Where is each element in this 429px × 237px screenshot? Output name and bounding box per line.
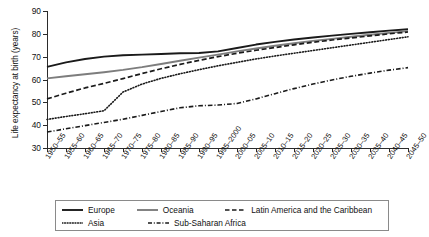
legend-label-latin-america-and-the-caribbean: Latin America and the Caribbean [251, 206, 372, 214]
series-line-europe [47, 29, 408, 67]
y-axis-tick-label: 60 [32, 75, 41, 83]
solid-line-swatch [62, 206, 83, 214]
legend-item-sub-saharan-africa: Sub-Saharan Africa [148, 219, 240, 227]
dotted-line-swatch [62, 219, 83, 227]
dashed-line-swatch [225, 206, 246, 214]
series-line-sub-saharan-africa [47, 68, 408, 132]
legend-item-europe: Europe [62, 206, 127, 214]
legend-label-asia: Asia [88, 219, 104, 227]
solid-line-swatch [137, 206, 158, 214]
y-axis-title: Life expectancy at birth (years) [10, 13, 20, 153]
y-axis-tick-label: 80 [32, 30, 41, 38]
y-axis-tick-label: 30 [32, 144, 41, 152]
plot-area: 30405060708090 1950–551955–601960–651965… [47, 11, 408, 148]
y-axis-tick-label: 40 [32, 121, 41, 129]
legend-item-latin-america-and-the-caribbean: Latin America and the Caribbean [225, 206, 372, 214]
legend-row-2: Asia Sub-Saharan Africa [62, 217, 382, 230]
y-axis-tick-label: 90 [32, 7, 41, 15]
series-line-latin-america-and-the-caribbean [47, 32, 408, 99]
y-axis-tick-label: 70 [32, 52, 41, 60]
legend-label-europe: Europe [88, 206, 115, 214]
dashdot-line-swatch [148, 219, 169, 227]
legend-item-asia: Asia [62, 219, 138, 227]
legend-label-oceania: Oceania [163, 206, 194, 214]
y-axis-tick-label: 50 [32, 98, 41, 106]
series-layer [47, 11, 408, 148]
chart-legend: Europe Oceania Latin America and the Car… [55, 200, 389, 231]
legend-label-sub-saharan-africa: Sub-Saharan Africa [174, 219, 246, 227]
legend-row-1: Europe Oceania Latin America and the Car… [62, 204, 382, 217]
legend-item-oceania: Oceania [137, 206, 215, 214]
